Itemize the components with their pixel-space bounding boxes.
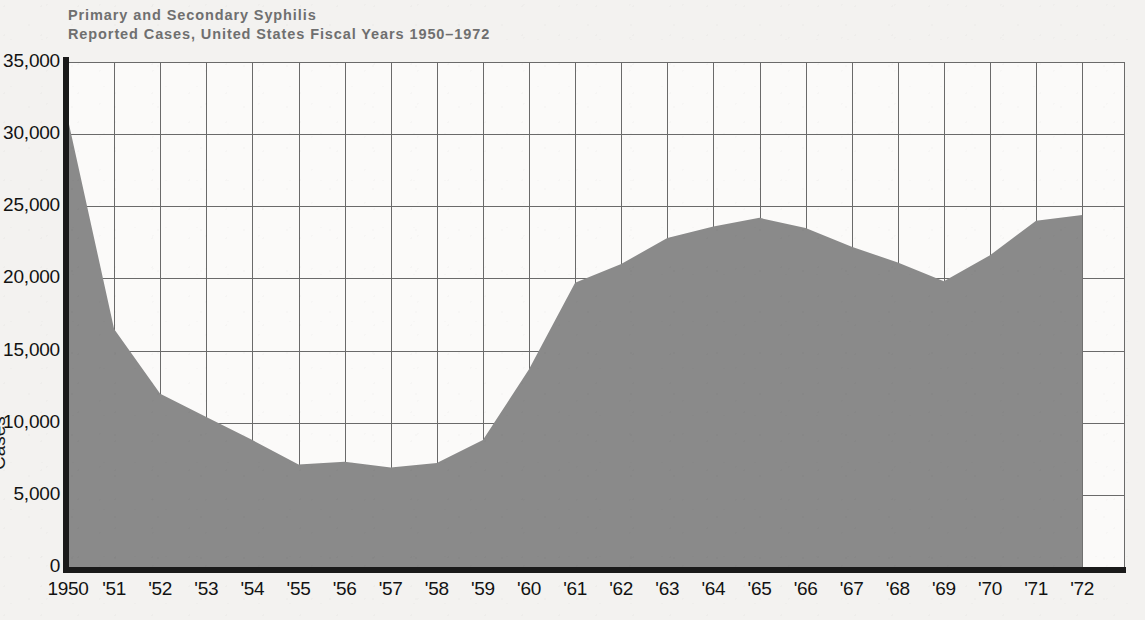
x-axis-tick-label: '65	[748, 578, 772, 600]
x-axis-line	[63, 567, 1126, 573]
chart-title-line-1: Primary and Secondary Syphilis	[68, 6, 490, 25]
x-axis-tick-label: '67	[840, 578, 864, 600]
x-axis-tick-label: '70	[978, 578, 1002, 600]
y-axis-tick-label: 30,000	[0, 122, 60, 144]
x-axis-tick-label: '63	[655, 578, 679, 600]
x-axis-tick-label: '59	[471, 578, 495, 600]
x-axis-tick-label: '71	[1024, 578, 1048, 600]
x-axis-tick-label: '68	[886, 578, 910, 600]
x-axis-tick-label: '52	[148, 578, 172, 600]
x-axis-tick-label: '61	[563, 578, 587, 600]
chart-title-line-2: Reported Cases, United States Fiscal Yea…	[68, 25, 490, 44]
y-axis-tick-label: 0	[0, 555, 60, 577]
x-axis-tick-label: '62	[609, 578, 633, 600]
y-axis-tick-label: 20,000	[0, 266, 60, 288]
y-axis-line	[63, 57, 69, 572]
x-axis-tick-label: '58	[425, 578, 449, 600]
x-axis-tick-label: '64	[701, 578, 725, 600]
y-axis-tick-label: 25,000	[0, 194, 60, 216]
x-axis-tick-label: 1950	[47, 578, 88, 600]
x-axis-tick-label: '72	[1070, 578, 1094, 600]
x-axis-tick-label: '56	[333, 578, 357, 600]
chart-page: Primary and Secondary Syphilis Reported …	[0, 0, 1145, 620]
x-axis-tick-label: '66	[794, 578, 818, 600]
y-axis-tick-label: 5,000	[0, 483, 60, 505]
x-axis-tick-label: '60	[517, 578, 541, 600]
x-axis-tick-label: '54	[240, 578, 264, 600]
chart-title: Primary and Secondary Syphilis Reported …	[68, 6, 490, 44]
y-axis-tick-labels: 05,00010,00015,00020,00025,00030,00035,0…	[0, 62, 1145, 567]
y-axis-tick-label: 10,000	[0, 411, 60, 433]
y-axis-tick-label: 15,000	[0, 339, 60, 361]
y-axis-tick-label: 35,000	[0, 50, 60, 72]
x-axis-tick-label: '53	[194, 578, 218, 600]
x-axis-tick-label: '55	[287, 578, 311, 600]
x-axis-tick-label: '57	[379, 578, 403, 600]
x-axis-tick-label: '69	[932, 578, 956, 600]
x-axis-tick-label: '51	[102, 578, 126, 600]
